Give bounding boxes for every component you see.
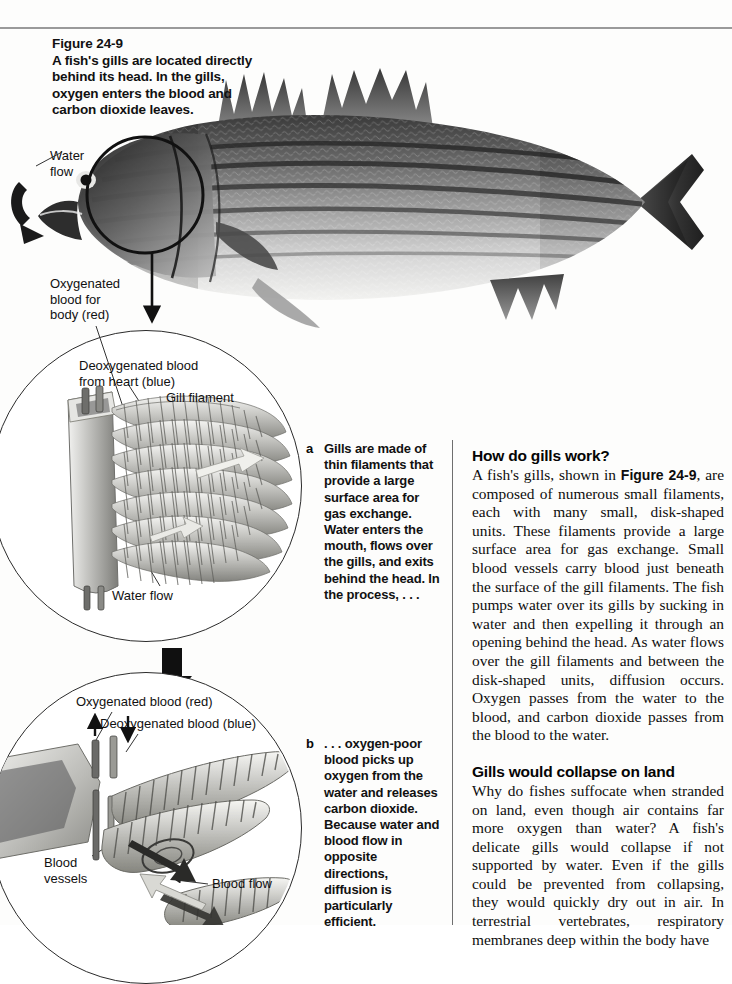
caption-a-marker: a (306, 441, 313, 456)
label-water-flow-photo: Water flow (50, 148, 84, 179)
caption-a-text: Gills are made of thin filaments that pr… (324, 441, 441, 603)
figure-caption-block: Figure 24-9 A fish's gills are located d… (52, 36, 267, 119)
label-oxygenated-blood-red: Oxygenated blood (red) (76, 694, 213, 710)
paragraph-gills-work: A fish's gills, shown in Figure 24-9, ar… (472, 466, 724, 745)
label-deoxygenated-blood-blue: Deoxygenated blood (blue) (100, 716, 256, 732)
figure-reference: Figure 24-9 (621, 467, 697, 483)
label-gill-filament: Gill filament (166, 390, 234, 406)
paragraph-gills-collapse: Why do fishes suffocate when stranded on… (472, 782, 724, 949)
caption-b-text: . . . oxygen-poor blood picks up oxygen … (324, 736, 441, 930)
figure-number: Figure 24-9 (52, 36, 267, 53)
label-water-flow-diagram: Water flow (112, 588, 173, 604)
paragraph-lead: A fish's gills, shown in (472, 466, 621, 483)
paragraph-body: , are composed of numerous small filamen… (472, 466, 724, 743)
caption-a: a Gills are made of thin filaments that … (306, 441, 441, 603)
article-column: How do gills work? A fish's gills, shown… (472, 446, 724, 949)
label-blood-vessels: Blood vessels (44, 855, 87, 886)
heading-how-do-gills-work: How do gills work? (472, 446, 724, 465)
label-deoxygenated-blood-heart: Deoxygenated blood from heart (blue) (79, 358, 198, 389)
figure-caption-text: A fish's gills are located directly behi… (52, 53, 267, 119)
label-oxygenated-blood-body: Oxygenated blood for body (red) (50, 276, 120, 323)
label-blood-flow: Blood flow (212, 876, 272, 892)
heading-gills-collapse: Gills would collapse on land (472, 762, 724, 781)
caption-b-marker: b (306, 736, 314, 751)
column-divider (452, 440, 453, 925)
header-rule (0, 27, 732, 29)
caption-b: b . . . oxygen-poor blood picks up oxyge… (306, 736, 441, 930)
